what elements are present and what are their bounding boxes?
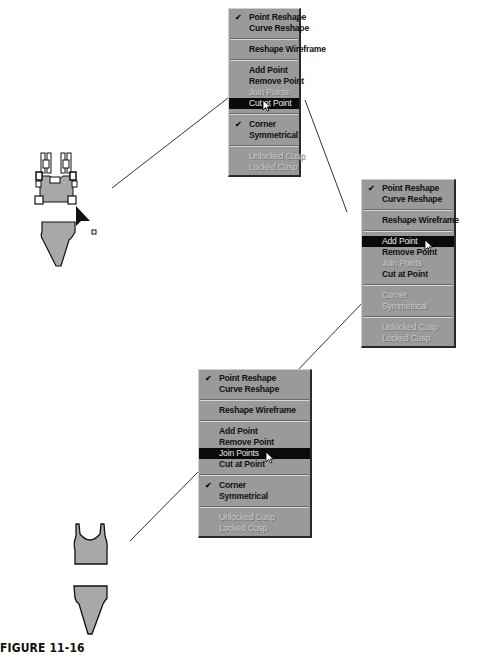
menu2-item-curve-reshape[interactable]: Curve Reshape xyxy=(362,194,454,205)
menu2-item-corner: Corner xyxy=(362,290,454,301)
menu2-item-symmetrical: Symmetrical xyxy=(362,301,454,312)
checkmark-icon: ✔ xyxy=(235,119,242,130)
menu3-item-locked-cusp: Locked Cusp xyxy=(199,523,310,534)
menu-separator xyxy=(200,399,309,401)
menu3-item-add-point[interactable]: Add Point xyxy=(199,426,310,437)
menu-separator xyxy=(363,230,453,232)
figure-caption: FIGURE 11-16 xyxy=(0,640,85,655)
checkmark-icon: ✔ xyxy=(205,373,212,384)
menu3-item-cut-at-point[interactable]: Cut at Point xyxy=(199,459,310,470)
menu3-item-point-reshape[interactable]: ✔Point Reshape xyxy=(199,373,310,384)
menu-separator xyxy=(200,506,309,508)
menu1-item-locked-cusp: Locked Cusp xyxy=(229,162,299,173)
menu-separator xyxy=(363,316,453,318)
menu-separator xyxy=(200,420,309,422)
checkmark-icon: ✔ xyxy=(235,12,242,23)
menu1-item-point-reshape[interactable]: ✔Point Reshape xyxy=(229,12,299,23)
menu3-item-join-points[interactable]: Join Points xyxy=(199,448,310,459)
menu-separator xyxy=(230,38,298,40)
checkmark-icon: ✔ xyxy=(368,183,375,194)
menu1-item-curve-reshape[interactable]: Curve Reshape xyxy=(229,23,299,34)
garment-joined-icon xyxy=(70,522,120,642)
menu1-item-add-point[interactable]: Add Point xyxy=(229,65,299,76)
menu1-item-cut-at-point[interactable]: Cut at Point xyxy=(229,98,299,109)
menu-separator xyxy=(363,209,453,211)
menu2-item-locked-cusp: Locked Cusp xyxy=(362,333,454,344)
mouse-cursor-icon xyxy=(262,99,272,112)
connector-line-3 xyxy=(296,300,365,372)
menu2-item-point-reshape[interactable]: ✔Point Reshape xyxy=(362,183,454,194)
menu2-item-add-point[interactable]: Add Point xyxy=(362,236,454,247)
menu2-item-cut-at-point[interactable]: Cut at Point xyxy=(362,269,454,280)
menu-separator xyxy=(363,284,453,286)
menu2-item-remove-point[interactable]: Remove Point xyxy=(362,247,454,258)
menu1-item-corner[interactable]: ✔Corner xyxy=(229,119,299,130)
menu2-item-join-points: Join Points xyxy=(362,258,454,269)
menu1-item-remove-point[interactable]: Remove Point xyxy=(229,76,299,87)
menu1-item-join-points: Join Points xyxy=(229,87,299,98)
menu3-item-curve-reshape[interactable]: Curve Reshape xyxy=(199,384,310,395)
connector-line-1 xyxy=(112,98,228,188)
menu3-item-corner[interactable]: ✔Corner xyxy=(199,480,310,491)
menu-separator xyxy=(230,113,298,115)
menu1-item-reshape-wireframe[interactable]: Reshape Wireframe xyxy=(229,44,299,55)
menu3-item-symmetrical[interactable]: Symmetrical xyxy=(199,491,310,502)
menu3-item-unlocked-cusp: Unlocked Cusp xyxy=(199,512,310,523)
reshape-context-menu-3: ✔Point Reshape Curve Reshape Reshape Wir… xyxy=(198,369,312,538)
menu3-item-remove-point[interactable]: Remove Point xyxy=(199,437,310,448)
connector-line-4 xyxy=(130,470,200,541)
menu1-item-unlocked-cusp: Unlocked Cusp xyxy=(229,151,299,162)
menu-separator xyxy=(200,474,309,476)
menu3-item-reshape-wireframe[interactable]: Reshape Wireframe xyxy=(199,405,310,416)
menu-separator xyxy=(230,145,298,147)
menu1-item-symmetrical[interactable]: Symmetrical xyxy=(229,130,299,141)
reshape-context-menu-2: ✔Point Reshape Curve Reshape Reshape Wir… xyxy=(361,179,456,348)
connector-line-2 xyxy=(305,100,347,212)
garment-top-selected-icon[interactable] xyxy=(28,150,108,270)
menu2-item-unlocked-cusp: Unlocked Cusp xyxy=(362,322,454,333)
menu2-item-reshape-wireframe[interactable]: Reshape Wireframe xyxy=(362,215,454,226)
reshape-context-menu-1: ✔Point Reshape Curve Reshape Reshape Wir… xyxy=(228,8,301,177)
checkmark-icon: ✔ xyxy=(205,480,212,491)
menu-separator xyxy=(230,59,298,61)
